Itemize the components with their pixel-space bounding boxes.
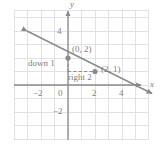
y-tick-minus2: −2 [53,107,63,116]
x-tick-4: 4 [119,89,124,98]
graph-figure: x y −2 0 2 4 4 −2 (0, 2) (2, 1) down 1 r… [0,0,164,148]
y-axis-label: y [70,0,74,9]
x-tick-2: 2 [92,89,97,98]
y-tick-4: 4 [57,27,62,36]
x-tick-minus2: −2 [33,89,43,98]
label-down-1: down 1 [28,59,55,68]
point-y-intercept [65,55,70,60]
point-second [92,69,97,74]
x-tick-0: 0 [58,89,63,98]
label-point-0-2: (0, 2) [72,45,92,54]
x-axis-label: x [150,80,154,89]
label-point-2-1: (2, 1) [101,65,121,74]
label-right-2: right 2 [68,73,92,82]
